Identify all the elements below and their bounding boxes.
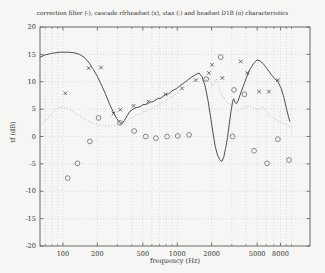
series-correction-filter: [40, 52, 290, 162]
y-tick-label: 0: [32, 133, 36, 141]
y-tick-label: -10: [25, 187, 36, 195]
o-marker: [175, 134, 180, 139]
y-tick-label: 15: [28, 51, 36, 59]
o-marker: [87, 139, 92, 144]
solid-curve: [40, 52, 290, 162]
y-tick-label: -5: [30, 160, 36, 168]
chart-canvas: -20-15-10-505101520100200500100020005000…: [0, 0, 325, 273]
o-marker: [276, 137, 281, 142]
o-marker: [132, 129, 137, 134]
y-tick-label: 20: [28, 23, 36, 31]
y-tick-label: 5: [32, 105, 36, 113]
o-marker: [187, 132, 192, 137]
y-tick-label: -20: [25, 242, 36, 250]
o-marker: [242, 92, 247, 97]
o-marker: [218, 55, 223, 60]
y-tick-label: -15: [25, 215, 36, 223]
axis-ticks: -20-15-10-505101520100200500100020005000…: [25, 23, 310, 257]
o-marker: [165, 134, 170, 139]
x-axis-label: frequency (Hz): [40, 257, 310, 265]
o-marker: [287, 158, 292, 163]
o-marker: [232, 88, 237, 93]
y-tick-label: 10: [28, 78, 36, 86]
o-marker: [65, 176, 70, 181]
o-marker: [75, 161, 80, 166]
dotted-curve: [40, 77, 292, 128]
o-marker: [252, 148, 257, 153]
o-marker: [265, 161, 270, 166]
o-marker: [153, 136, 158, 141]
series-cascade-rfrheadset: [64, 60, 280, 116]
figure: correction filter (-), cascade rfrheadse…: [0, 0, 325, 273]
y-axis-label: tf (dB): [9, 109, 17, 155]
series-stax: [40, 77, 292, 128]
o-marker: [96, 115, 101, 120]
